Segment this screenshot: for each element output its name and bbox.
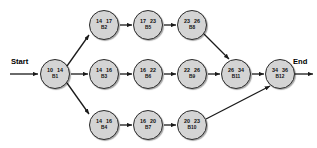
node-times: 2326 (184, 19, 200, 24)
end-label: End (293, 58, 307, 66)
start-label: Start (11, 58, 28, 66)
node-early-time: 20 (184, 119, 190, 124)
node-b4[interactable]: 1416B4 (89, 110, 119, 140)
node-late-time: 36 (282, 68, 288, 73)
edge-b1-to-b4 (67, 83, 89, 114)
node-b6[interactable]: 1622B6 (133, 59, 163, 89)
node-late-time: 34 (238, 68, 244, 73)
node-early-time: 14 (96, 119, 102, 124)
node-b2[interactable]: 1417B2 (89, 10, 119, 40)
node-times: 1620 (140, 119, 156, 124)
node-id-label: B6 (145, 75, 151, 80)
node-early-time: 23 (184, 19, 190, 24)
node-early-time: 22 (184, 68, 190, 73)
node-b8[interactable]: 2326B8 (177, 10, 207, 40)
node-early-time: 26 (228, 68, 234, 73)
node-late-time: 23 (150, 19, 156, 24)
node-times: 1014 (47, 68, 63, 73)
node-times: 2023 (184, 119, 200, 124)
node-late-time: 16 (106, 119, 112, 124)
node-late-time: 22 (150, 68, 156, 73)
node-id-label: B10 (188, 126, 197, 131)
node-times: 3436 (272, 68, 288, 73)
node-late-time: 26 (194, 68, 200, 73)
node-times: 2226 (184, 68, 200, 73)
node-times: 1723 (140, 19, 156, 24)
node-b1[interactable]: 1014B1 (40, 59, 70, 89)
node-times: 1622 (140, 68, 156, 73)
node-late-time: 23 (194, 119, 200, 124)
node-early-time: 14 (96, 19, 102, 24)
node-id-label: B4 (101, 126, 107, 131)
node-b7[interactable]: 1620B7 (133, 110, 163, 140)
node-id-label: B3 (101, 75, 107, 80)
node-id-label: B1 (52, 75, 58, 80)
node-late-time: 14 (57, 68, 63, 73)
node-early-time: 16 (140, 119, 146, 124)
edge-b1-to-b2 (67, 35, 89, 66)
node-id-label: B12 (276, 75, 285, 80)
node-times: 2634 (228, 68, 244, 73)
node-early-time: 34 (272, 68, 278, 73)
node-id-label: B2 (101, 26, 107, 31)
node-b10[interactable]: 2023B10 (177, 110, 207, 140)
node-early-time: 16 (140, 68, 146, 73)
project-network-diagram: 1014B11417B21723B52326B81416B31622B62226… (0, 0, 317, 148)
node-b9[interactable]: 2226B9 (177, 59, 207, 89)
node-late-time: 17 (106, 19, 112, 24)
node-times: 1417 (96, 19, 112, 24)
node-id-label: B9 (189, 75, 195, 80)
node-id-label: B8 (189, 26, 195, 31)
node-b12[interactable]: 3436B12 (265, 59, 295, 89)
node-id-label: B5 (145, 26, 151, 31)
node-late-time: 16 (106, 68, 112, 73)
node-b5[interactable]: 1723B5 (133, 10, 163, 40)
node-times: 1416 (96, 68, 112, 73)
node-early-time: 17 (140, 19, 146, 24)
node-late-time: 26 (194, 19, 200, 24)
node-id-label: B11 (232, 75, 241, 80)
node-b3[interactable]: 1416B3 (89, 59, 119, 89)
edge-b10-to-b12 (206, 86, 270, 119)
node-id-label: B7 (145, 126, 151, 131)
edge-b8-to-b11 (204, 34, 229, 59)
node-b11[interactable]: 2634B11 (221, 59, 251, 89)
node-times: 1416 (96, 119, 112, 124)
node-late-time: 20 (150, 119, 156, 124)
node-early-time: 10 (47, 68, 53, 73)
node-early-time: 14 (96, 68, 102, 73)
